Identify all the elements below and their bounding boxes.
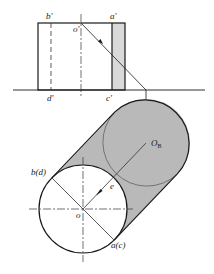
label-e: e bbox=[110, 181, 114, 191]
label-c-prime: c' bbox=[106, 93, 113, 103]
label-a-c: a(c) bbox=[111, 240, 126, 250]
label-d-prime: d' bbox=[47, 93, 55, 103]
label-o-prime: o' bbox=[73, 24, 81, 34]
shadow-projection-diagram: b' a' o' d' c' b(d) a(c) o e OB bbox=[0, 0, 214, 274]
label-b-prime: b' bbox=[46, 11, 54, 21]
label-b-d: b(d) bbox=[31, 167, 46, 177]
label-a-prime: a' bbox=[110, 11, 118, 21]
label-o: o bbox=[76, 210, 81, 220]
